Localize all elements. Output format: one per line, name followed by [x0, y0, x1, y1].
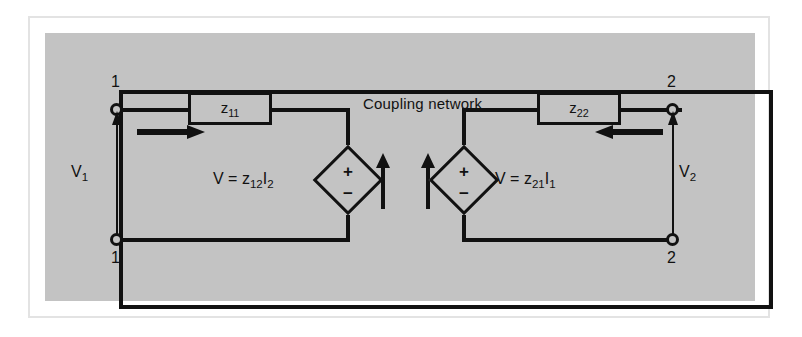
impedance-z11-box: z11	[188, 92, 272, 125]
port2-bottom-terminal-label: 2	[667, 249, 676, 267]
impedance-z22-box: z22	[537, 92, 621, 125]
port2-voltage-label: V2	[679, 163, 696, 183]
port2-bottom-wire	[462, 238, 675, 242]
impedance-z22-label: z22	[569, 99, 589, 119]
port1-top-wire-left	[122, 108, 188, 112]
right-source-minus-sign: −	[459, 185, 469, 202]
left-source-top-lead	[346, 108, 350, 145]
figure-gray-panel: Coupling network 1 z11 + − 1 V1	[45, 33, 755, 301]
left-source-minus-sign: −	[343, 185, 353, 202]
port1-voltage-label: V1	[71, 163, 88, 183]
left-source-reference-arrow	[375, 153, 391, 209]
right-source-top-lead	[462, 108, 466, 145]
figure-root: Coupling network 1 z11 + − 1 V1	[0, 0, 802, 337]
impedance-z11-label: z11	[221, 99, 240, 119]
port1-bottom-terminal-label: 1	[111, 249, 120, 267]
right-source-bottom-lead	[462, 215, 466, 240]
port1-top-wire-right	[272, 108, 349, 112]
port2-top-terminal-label: 2	[667, 73, 676, 91]
port1-bottom-wire	[116, 238, 350, 242]
left-source-plus-sign: +	[343, 163, 353, 180]
port1-top-terminal-label: 1	[111, 73, 120, 91]
port2-top-wire-left	[462, 108, 537, 112]
port1-current-arrow	[137, 124, 205, 140]
right-source-plus-sign: +	[459, 163, 469, 180]
port1-voltage-reference-arrow	[108, 111, 126, 237]
left-source-bottom-lead	[346, 215, 350, 240]
left-source-equation: V = z12I2	[213, 170, 274, 190]
port2-current-arrow	[595, 124, 663, 140]
right-source-equation: V = z21I1	[495, 170, 556, 190]
